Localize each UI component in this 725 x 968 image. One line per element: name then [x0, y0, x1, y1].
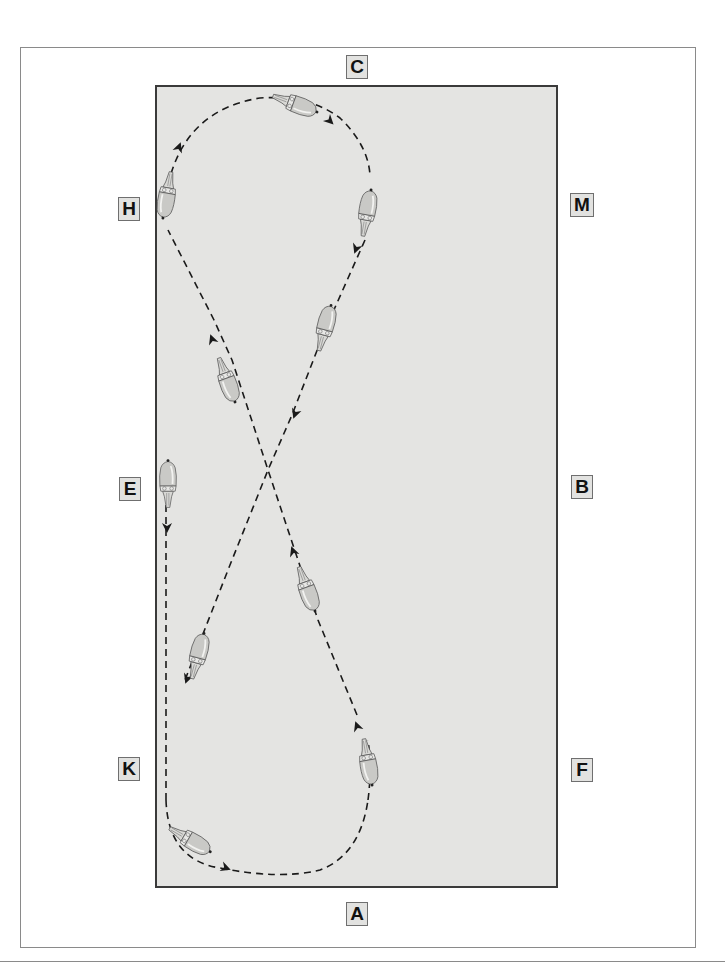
- arrow-icon: [206, 333, 219, 346]
- horse-icon: [291, 564, 323, 615]
- arrow-icon: [350, 243, 363, 256]
- arrow-icon: [323, 114, 337, 128]
- direction-arrows: [162, 114, 363, 874]
- dashed-path: [166, 98, 370, 875]
- horse-icon: [355, 187, 380, 237]
- horses: [154, 88, 380, 860]
- horse-icon: [160, 459, 177, 507]
- horse-icon: [356, 737, 381, 787]
- horse-icon: [154, 170, 179, 220]
- arrow-icon: [351, 720, 364, 733]
- figure-eight-diagram: [0, 0, 725, 968]
- horse-icon: [184, 630, 213, 681]
- arrow-icon: [162, 523, 172, 533]
- horse-icon: [270, 88, 321, 120]
- horse-icon: [311, 302, 340, 353]
- horse-icon: [166, 821, 216, 860]
